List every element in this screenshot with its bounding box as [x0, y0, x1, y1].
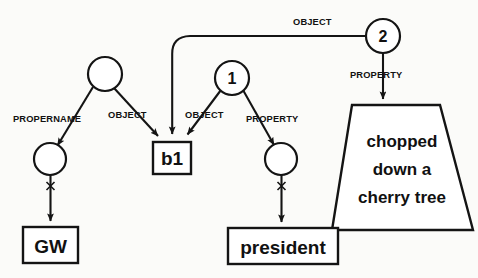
edge-propername: PROPERNAME: [13, 87, 93, 146]
node-one-label: 1: [228, 70, 237, 87]
node-property-circle[interactable]: [265, 143, 297, 175]
edge-label-property-right: PROPERTY: [350, 70, 403, 80]
edge-property-to-president: [278, 175, 286, 222]
node-event-trapezoid[interactable]: chopped down a cherry tree: [332, 105, 473, 230]
node-b1-box[interactable]: b1: [153, 142, 191, 174]
node-two[interactable]: 2: [366, 19, 400, 53]
node-root-circle-shape[interactable]: [88, 57, 122, 91]
node-two-label: 2: [379, 28, 388, 45]
edge-property-right: PROPERTY: [350, 53, 403, 99]
node-propername-circle-shape[interactable]: [34, 143, 66, 175]
node-event-trapezoid-line-1: chopped: [367, 132, 438, 151]
node-gw-box[interactable]: GW: [23, 227, 78, 263]
node-event-trapezoid-line-2: down a: [373, 160, 432, 179]
edge-label-property-left: PROPERTY: [246, 114, 299, 124]
node-president-box[interactable]: president: [228, 228, 338, 264]
node-gw-box-label: GW: [34, 236, 67, 257]
edge-object-mid: OBJECT: [185, 90, 224, 135]
edge-property-left: PROPERTY: [243, 90, 299, 145]
semantic-network-diagram: PROPERNAME OBJECT OBJECT PROPERTY OBJECT…: [0, 0, 478, 278]
node-event-trapezoid-line-3: cherry tree: [358, 188, 446, 207]
node-b1-box-label: b1: [161, 148, 184, 169]
edge-label-object-left: OBJECT: [108, 110, 147, 120]
edge-object-left: OBJECT: [108, 88, 158, 136]
edge-label-propername: PROPERNAME: [13, 114, 81, 124]
node-one[interactable]: 1: [215, 61, 249, 95]
diagram-canvas: PROPERNAME OBJECT OBJECT PROPERTY OBJECT…: [0, 0, 478, 278]
node-propername-circle[interactable]: [34, 143, 66, 175]
node-property-circle-shape[interactable]: [265, 143, 297, 175]
edge-label-object-mid: OBJECT: [185, 110, 224, 120]
edge-label-object-top: OBJECT: [293, 17, 332, 27]
edge-propername-to-gw: [47, 175, 55, 221]
node-president-box-label: president: [240, 237, 326, 258]
node-root-circle[interactable]: [88, 57, 122, 91]
